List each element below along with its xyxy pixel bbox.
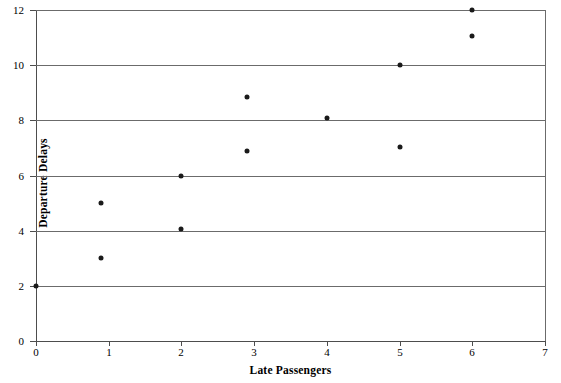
x-tick-label-3: 3 [251,346,257,358]
data-point [470,8,475,13]
y-axis-title: Departure Delays [37,138,49,228]
y-tick-label-12: 12 [0,4,24,16]
data-point [397,144,402,149]
plot-right-border [545,10,546,341]
data-point [397,63,402,68]
y-tick-12 [30,10,36,11]
x-tick-label-2: 2 [178,346,184,358]
x-tick-label-6: 6 [469,346,475,358]
y-tick-10 [30,65,36,66]
y-tick-6 [30,176,36,177]
gridline-y-2 [36,286,545,287]
x-tick-label-7: 7 [542,346,548,358]
y-tick-label-2: 2 [0,280,24,292]
gridline-y-4 [36,231,545,232]
data-point [470,34,475,39]
x-tick-label-0: 0 [33,346,39,358]
y-tick-label-8: 8 [0,114,24,126]
x-tick-label-5: 5 [397,346,403,358]
data-point [179,173,184,178]
y-tick-label-0: 0 [0,335,24,347]
data-point [99,256,104,261]
scatter-chart: Departure Delays 024681012 01234567 Late… [0,0,561,383]
y-tick-4 [30,231,36,232]
data-point [34,283,39,288]
x-tick-label-4: 4 [324,346,330,358]
gridline-y-8 [36,120,545,121]
y-tick-label-6: 6 [0,170,24,182]
gridline-y-10 [36,65,545,66]
y-tick-label-4: 4 [0,225,24,237]
y-tick-label-10: 10 [0,59,24,71]
data-point [244,94,249,99]
x-axis-title: Late Passengers [36,364,545,376]
data-point [99,201,104,206]
x-tick-label-1: 1 [106,346,112,358]
gridline-y-12 [36,10,545,11]
x-axis-line [36,341,545,342]
data-point [324,115,329,120]
gridline-y-6 [36,176,545,177]
data-point [179,227,184,232]
y-tick-8 [30,120,36,121]
data-point [244,148,249,153]
